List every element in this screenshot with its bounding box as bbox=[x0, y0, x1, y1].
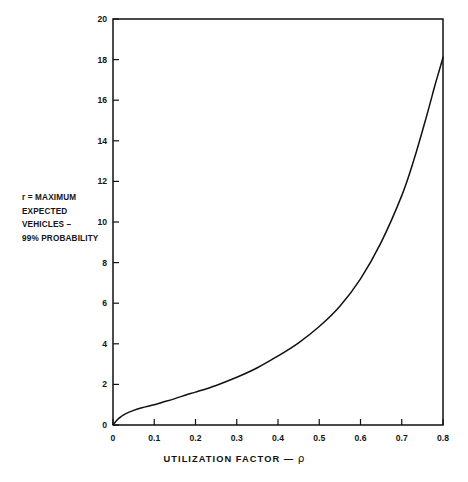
x-tick-label: 0.4 bbox=[272, 433, 284, 443]
y-tick-label: 6 bbox=[102, 298, 107, 308]
chart-figure: r = MAXIMUM EXPECTED VEHICLES – 99% PROB… bbox=[0, 0, 468, 482]
x-tick-label: 0 bbox=[111, 433, 116, 443]
y-tick-label: 10 bbox=[97, 217, 107, 227]
y-tick-label: 12 bbox=[97, 176, 107, 186]
y-tick-label: 2 bbox=[102, 379, 107, 389]
x-tick-label: 0.3 bbox=[231, 433, 243, 443]
x-tick-label: 0.6 bbox=[355, 433, 367, 443]
plot-frame bbox=[113, 19, 443, 425]
y-tick-label: 20 bbox=[97, 14, 107, 24]
axis-ticks bbox=[113, 19, 443, 425]
y-tick-label: 16 bbox=[97, 95, 107, 105]
y-tick-label: 8 bbox=[102, 258, 107, 268]
y-tick-label: 0 bbox=[102, 420, 107, 430]
data-curve bbox=[113, 58, 443, 425]
y-tick-label: 14 bbox=[97, 136, 107, 146]
y-tick-label: 18 bbox=[97, 55, 107, 65]
rho-symbol: ρ bbox=[298, 452, 305, 464]
x-axis-title: UTILIZATION FACTOR — ρ bbox=[0, 452, 468, 464]
x-tick-label: 0.8 bbox=[437, 433, 449, 443]
x-tick-label: 0.1 bbox=[148, 433, 160, 443]
x-axis-title-text: UTILIZATION FACTOR — bbox=[164, 454, 295, 464]
y-tick-label: 4 bbox=[102, 339, 107, 349]
y-axis-annotation: r = MAXIMUM EXPECTED VEHICLES – 99% PROB… bbox=[22, 191, 127, 245]
x-tick-label: 0.2 bbox=[190, 433, 202, 443]
x-tick-label: 0.7 bbox=[396, 433, 408, 443]
x-tick-label: 0.5 bbox=[313, 433, 325, 443]
